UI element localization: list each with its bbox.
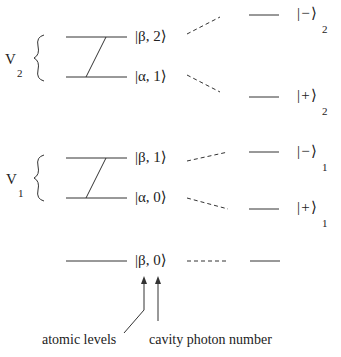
state-alpha-1: |α, 1⟩ bbox=[135, 69, 167, 84]
annotation-atomic-levels: atomic levels bbox=[42, 333, 116, 347]
connector-minus-2 bbox=[187, 17, 220, 34]
annotation-photon-number: cavity photon number bbox=[149, 333, 272, 347]
connector-plus-1 bbox=[187, 198, 228, 209]
group-label-v1: V bbox=[6, 172, 17, 187]
arrowhead-photon bbox=[155, 276, 161, 284]
level-diagram bbox=[0, 0, 341, 357]
state-beta-1: |β, 1⟩ bbox=[135, 150, 167, 165]
group-name: V bbox=[6, 171, 17, 187]
connector-plus-2 bbox=[187, 75, 220, 92]
dressed-plus-2: | + ⟩ bbox=[297, 88, 317, 103]
dressed-plus-1-subscript: 1 bbox=[322, 218, 328, 229]
coupling-v1 bbox=[86, 158, 106, 198]
group-label-v2: V bbox=[5, 52, 16, 67]
dressed-sign: − bbox=[301, 5, 309, 21]
dressed-minus-2-subscript: 2 bbox=[322, 24, 328, 35]
dressed-plus-1: | + ⟩ bbox=[297, 200, 317, 215]
state-beta-0: |β, 0⟩ bbox=[135, 253, 167, 268]
state-alpha-0: |α, 0⟩ bbox=[135, 190, 167, 205]
dressed-sign: + bbox=[301, 87, 309, 103]
group-subscript-v1: 1 bbox=[18, 188, 24, 199]
dressed-sign: − bbox=[301, 143, 309, 159]
dressed-minus-1: | − ⟩ bbox=[297, 144, 317, 159]
connector-minus-1 bbox=[187, 152, 228, 161]
group-name: V bbox=[5, 51, 16, 67]
dressed-sign: + bbox=[301, 199, 309, 215]
arrowhead-atomic bbox=[141, 276, 147, 284]
dressed-plus-2-subscript: 2 bbox=[322, 106, 328, 117]
state-beta-2: |β, 2⟩ bbox=[135, 29, 167, 44]
arrow-atomic-levels bbox=[124, 281, 144, 333]
group-subscript-v2: 2 bbox=[17, 68, 23, 79]
dressed-minus-2: | − ⟩ bbox=[297, 6, 317, 21]
brace-v1 bbox=[34, 155, 44, 201]
brace-v2 bbox=[34, 35, 44, 81]
coupling-v2 bbox=[86, 37, 106, 77]
dressed-minus-1-subscript: 1 bbox=[322, 162, 328, 173]
